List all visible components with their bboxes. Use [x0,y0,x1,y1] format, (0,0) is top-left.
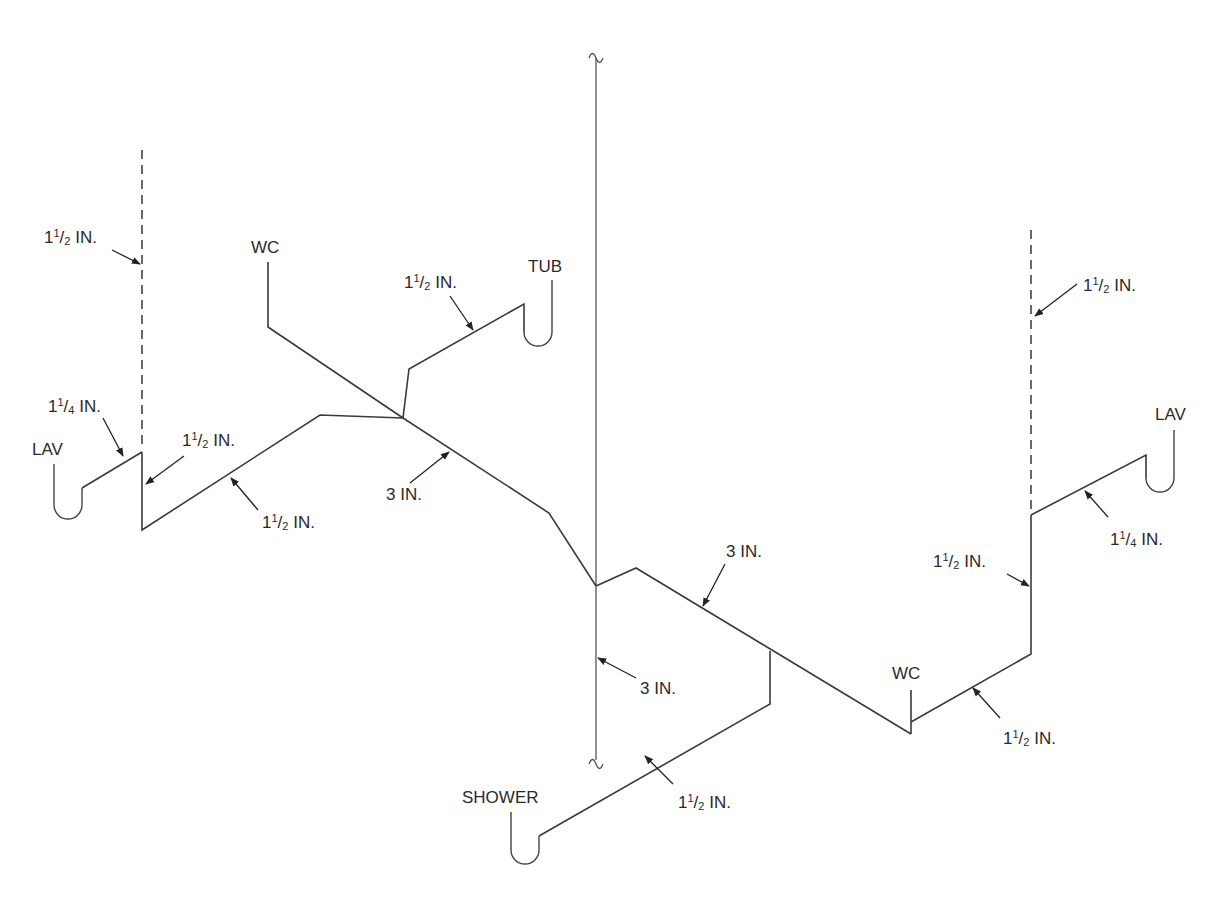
label-wc-left: WC [251,238,279,257]
main-stack [589,54,603,769]
main-drain-upper [403,418,596,586]
branch-right [911,515,1031,722]
size-leaders [103,250,1108,784]
label-tub: TUB [528,257,562,276]
tub-fixture [403,280,552,418]
size-tub-arm: 11/2 IN. [404,272,457,292]
label-lav-right: LAV [1155,405,1187,424]
main-drain-lower [596,568,911,734]
size-vent-right: 11/2 IN. [1083,275,1136,295]
wc-left-line [268,262,403,418]
size-wc-right-arm: 11/2 IN. [1003,728,1056,748]
lav-left-fixture [54,452,142,519]
label-shower: SHOWER [462,788,539,807]
size-lav-left-arm: 11/4 IN. [48,396,101,416]
size-riser-left: 11/2 IN. [182,430,235,450]
label-wc-right: WC [892,664,920,683]
plumbing-riser-diagram: LAV WC TUB LAV WC SHOWER 11/2 IN. 11/4 I… [0,0,1228,913]
size-main-upper: 3 IN. [386,485,422,504]
size-main-lower: 3 IN. [726,542,762,561]
break-symbol-bottom-icon [589,760,603,769]
size-riser-right: 11/2 IN. [933,551,986,571]
size-vent-left: 11/2 IN. [44,227,97,247]
lav-right-fixture [1031,430,1174,515]
size-shower-arm: 11/2 IN. [678,792,731,812]
size-lav-right-arm: 11/4 IN. [1110,529,1163,549]
label-lav-left: LAV [32,440,64,459]
size-branch-left: 11/2 IN. [262,512,315,532]
size-stack-lower: 3 IN. [640,679,676,698]
